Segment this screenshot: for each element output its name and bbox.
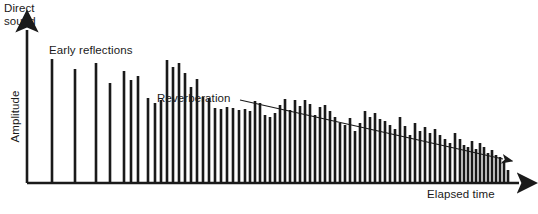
impulse-response-diagram: Direct sound Early reflections Reverbera… — [0, 0, 538, 214]
impulse-bar — [304, 100, 307, 183]
impulse-bar — [344, 125, 347, 183]
impulse-bar — [374, 113, 377, 183]
impulse-bar — [334, 117, 337, 183]
impulse-bar — [274, 113, 277, 183]
impulse-bar — [394, 129, 397, 183]
impulse-bar — [123, 71, 126, 183]
impulse-bar — [429, 133, 432, 183]
impulse-bar — [503, 161, 506, 183]
impulse-bar — [475, 149, 478, 183]
impulse-bar — [424, 127, 427, 183]
impulse-bar — [369, 117, 372, 183]
impulse-bar — [409, 135, 412, 183]
impulse-bar — [238, 110, 241, 183]
impulse-bar — [384, 121, 387, 183]
impulse-bar — [254, 101, 257, 183]
impulse-bar — [454, 133, 457, 183]
impulse-bar — [220, 109, 223, 183]
impulse-bar — [491, 150, 494, 183]
impulse-bar — [439, 135, 442, 183]
impulse-bar — [459, 139, 462, 183]
impulse-bar — [279, 105, 282, 183]
impulse-bar — [419, 131, 422, 183]
impulse-bar — [166, 60, 169, 183]
impulse-bar — [404, 126, 407, 183]
x-axis-label: Elapsed time — [427, 188, 495, 201]
impulse-bar — [349, 118, 352, 183]
impulse-bar — [314, 115, 317, 183]
impulse-bar — [414, 123, 417, 183]
impulse-bar — [434, 129, 437, 183]
impulse-bar — [354, 131, 357, 183]
reflectogram-plot — [0, 0, 538, 214]
impulse-bar — [264, 115, 267, 183]
impulse-bar — [202, 97, 205, 183]
impulse-bar — [259, 103, 262, 183]
impulse-bar — [499, 157, 502, 183]
impulse-bar — [130, 80, 133, 183]
impulse-bar — [487, 153, 490, 183]
impulse-bar — [137, 76, 140, 183]
impulse-bar — [399, 117, 402, 183]
impulse-bar — [214, 108, 217, 183]
reverberation-label: Reverberation — [157, 92, 231, 105]
impulse-bar — [479, 143, 482, 183]
impulse-bar — [269, 117, 272, 183]
impulse-bar — [324, 105, 327, 183]
impulse-bar — [232, 108, 235, 183]
direct-sound-label: Direct sound — [4, 2, 36, 28]
impulse-bar — [147, 98, 150, 183]
impulse-bar — [208, 98, 211, 183]
impulse-bar — [299, 106, 302, 183]
impulse-bar — [359, 123, 362, 183]
impulse-bar — [74, 69, 77, 183]
impulse-bar — [160, 100, 163, 183]
impulse-bar — [109, 83, 112, 183]
early-reflections-label: Early reflections — [49, 44, 133, 57]
impulse-bar — [226, 107, 229, 183]
impulse-bar — [379, 119, 382, 183]
impulse-bar — [51, 59, 54, 183]
impulse-bar — [495, 155, 498, 183]
impulse-bar — [284, 99, 287, 183]
impulse-bar — [249, 111, 252, 183]
impulse-bar — [483, 147, 486, 183]
impulse-bar — [95, 63, 98, 183]
impulse-bar — [289, 110, 292, 183]
impulse-bar — [178, 63, 181, 183]
impulse-bar — [471, 141, 474, 183]
impulse-bar — [467, 147, 470, 183]
impulse-bar — [449, 143, 452, 183]
y-axis-label: Amplitude — [9, 82, 22, 152]
impulse-bar — [329, 111, 332, 183]
impulse-bar — [154, 103, 157, 183]
impulse-bar — [184, 73, 187, 183]
impulse-bar — [244, 109, 247, 183]
impulse-bar — [172, 67, 175, 183]
impulse-bar — [364, 111, 367, 183]
impulse-bars — [51, 59, 510, 183]
impulse-bar — [507, 170, 510, 183]
impulse-bar — [339, 123, 342, 183]
